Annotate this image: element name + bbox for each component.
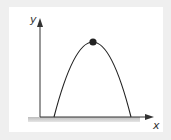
ground-shadow [28, 117, 140, 122]
parabola-diagram [0, 0, 171, 140]
parabola-curve [54, 42, 131, 117]
y-axis-arrow-icon [37, 18, 43, 27]
x-axis-label: x [153, 119, 160, 132]
peak-marker [89, 38, 96, 45]
y-axis-label: y [30, 13, 37, 26]
